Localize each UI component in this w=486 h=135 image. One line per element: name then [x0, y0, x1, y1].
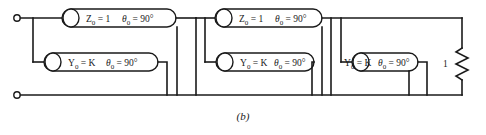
shunt-stub-2-left-cap [217, 53, 233, 71]
load-resistor-zigzag [456, 48, 468, 80]
figure-root: Z0 = 1 θ0 = 90° Z0 = 1 θ0 = 90° Y0 = K θ… [0, 0, 486, 135]
load-resistor-label: 1 [443, 59, 448, 69]
input-terminal-bottom-icon [14, 92, 20, 98]
series-line-1-left-cap [63, 9, 79, 27]
input-terminal-top-icon [14, 15, 20, 21]
wire-stub3-to-ground [418, 62, 427, 95]
series-line-2-left-cap [216, 9, 232, 27]
wire-stub1-to-ground [158, 62, 167, 95]
figure-caption: (b) [0, 110, 486, 122]
shunt-stub-1-left-cap [45, 53, 61, 71]
